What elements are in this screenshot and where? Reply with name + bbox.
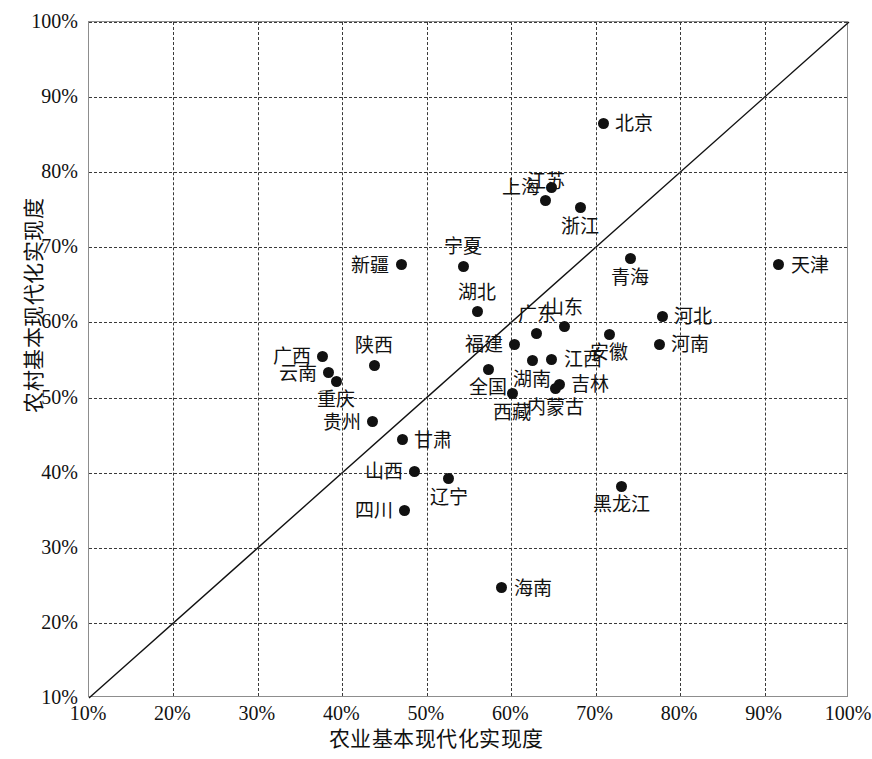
gridline-vertical <box>765 22 766 696</box>
data-point <box>604 329 615 340</box>
x-tick-label: 30% <box>212 703 302 723</box>
y-tick-label: 100% <box>0 11 78 31</box>
y-tick-label: 40% <box>0 462 78 482</box>
y-tick-label: 70% <box>0 236 78 256</box>
data-point <box>458 261 469 272</box>
chart-canvas: 农村基本现代化实现度 10%20%30%40%50%60%70%80%90%10… <box>0 0 872 759</box>
y-tick-label: 30% <box>0 537 78 557</box>
data-point-label: 海南 <box>514 578 552 597</box>
data-point <box>657 311 668 322</box>
identity-reference-line <box>89 22 849 698</box>
data-point-label: 江西 <box>564 350 602 369</box>
gridline-horizontal <box>89 548 847 549</box>
y-tick-label: 50% <box>0 387 78 407</box>
data-point <box>625 253 636 264</box>
x-tick-label: 60% <box>465 703 555 723</box>
gridline-vertical <box>511 22 512 696</box>
data-point <box>509 339 520 350</box>
data-point <box>527 355 538 366</box>
data-point-label: 山西 <box>365 462 403 481</box>
data-point-label: 福建 <box>465 335 503 354</box>
y-tick-label: 60% <box>0 311 78 331</box>
data-point-label: 浙江 <box>561 217 599 236</box>
gridline-vertical <box>680 22 681 696</box>
x-tick-label: 100% <box>803 703 872 723</box>
data-point <box>507 388 518 399</box>
x-tick-label: 20% <box>127 703 217 723</box>
data-point-label: 上海 <box>502 178 540 197</box>
data-point-label: 新疆 <box>351 255 389 274</box>
data-point <box>483 364 494 375</box>
data-point <box>654 339 665 350</box>
plot-area: 北京江苏上海浙江天津青海宁夏新疆湖北河北山东广东安徽河南福建广西陕西江西云南全国… <box>88 21 848 697</box>
x-tick-label: 10% <box>43 703 133 723</box>
data-point-label: 河南 <box>671 335 709 354</box>
data-point-label: 甘肃 <box>414 430 452 449</box>
gridline-horizontal <box>89 473 847 474</box>
gridline-horizontal <box>89 623 847 624</box>
gridline-vertical <box>427 22 428 696</box>
data-point-label: 黑龙江 <box>593 495 650 514</box>
data-point-label: 宁夏 <box>444 237 482 256</box>
gridline-horizontal <box>89 97 847 98</box>
data-point <box>397 434 408 445</box>
data-point-label: 四川 <box>355 501 393 520</box>
data-point-label: 辽宁 <box>430 488 468 507</box>
data-point <box>369 360 380 371</box>
data-point <box>546 354 557 365</box>
y-tick-label: 90% <box>0 86 78 106</box>
x-axis-title: 农业基本现代化实现度 <box>0 722 872 752</box>
data-point <box>598 118 609 129</box>
data-point-label: 湖北 <box>458 283 496 302</box>
gridline-vertical <box>342 22 343 696</box>
data-point <box>331 376 342 387</box>
gridline-horizontal <box>89 22 847 23</box>
x-tick-label: 70% <box>550 703 640 723</box>
data-point-label: 天津 <box>791 255 829 274</box>
data-point <box>546 182 557 193</box>
x-tick-label: 80% <box>634 703 724 723</box>
x-tick-label: 90% <box>719 703 809 723</box>
data-point <box>396 259 407 270</box>
y-tick-label: 20% <box>0 612 78 632</box>
data-point-label: 湖南 <box>513 370 551 389</box>
y-axis-ticks: 10%20%30%40%50%60%70%80%90%100% <box>0 0 88 759</box>
data-point-label: 重庆 <box>317 390 355 409</box>
data-point <box>550 383 561 394</box>
data-point-label: 青海 <box>611 268 649 287</box>
y-tick-label: 80% <box>0 161 78 181</box>
data-point <box>616 481 627 492</box>
x-tick-label: 40% <box>296 703 386 723</box>
data-point-label: 云南 <box>279 363 317 382</box>
data-point-label: 陕西 <box>355 336 393 355</box>
data-point-label: 广东 <box>518 305 556 324</box>
gridline-vertical <box>258 22 259 696</box>
x-tick-label: 50% <box>381 703 471 723</box>
data-point-label: 河北 <box>674 307 712 326</box>
data-point-label: 北京 <box>615 114 653 133</box>
data-point-label: 吉林 <box>571 375 609 394</box>
gridline-horizontal <box>89 322 847 323</box>
data-point-label: 西藏 <box>493 403 531 422</box>
data-point-label: 贵州 <box>323 412 361 431</box>
gridline-vertical <box>173 22 174 696</box>
data-point <box>399 505 410 516</box>
gridline-horizontal <box>89 172 847 173</box>
data-point-label: 内蒙古 <box>527 398 584 417</box>
data-point <box>575 202 586 213</box>
gridline-horizontal <box>89 398 847 399</box>
data-point-label: 全国 <box>469 378 507 397</box>
